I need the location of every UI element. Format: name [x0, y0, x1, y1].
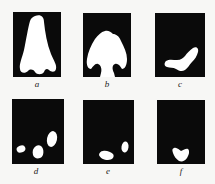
panel-c-label: c [170, 79, 190, 89]
blob-e-1 [99, 151, 114, 160]
blob-e-2 [121, 141, 129, 153]
panel-e-label: e [98, 166, 118, 176]
blob-f-shape [157, 100, 205, 164]
blob-e-shapes [83, 100, 134, 164]
panel-b [83, 13, 131, 77]
blob-c-shape [155, 13, 205, 77]
blob-d-shapes [12, 99, 64, 164]
blob-d-3 [45, 130, 58, 148]
panel-d [12, 99, 64, 164]
panel-d-label: d [26, 166, 46, 176]
blob-d-1 [16, 144, 27, 154]
panel-e [83, 100, 134, 164]
panel-a [13, 12, 61, 77]
panel-f [157, 100, 205, 164]
panel-c [155, 13, 205, 77]
panel-f-label: f [171, 166, 191, 176]
panel-a-label: a [27, 79, 47, 89]
blob-a-shape [13, 12, 61, 77]
blob-b-shape [83, 13, 131, 77]
panel-b-label: b [97, 79, 117, 89]
blob-d-2 [33, 145, 44, 158]
